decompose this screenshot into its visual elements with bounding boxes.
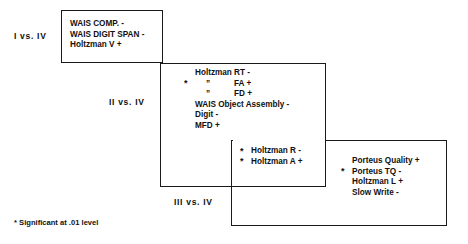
list-item: WAIS Object Assembly - <box>195 100 289 111</box>
content-group-ii-vs-iv: Holtzman RT - * ”FA + ”FD + WAIS Object … <box>195 68 289 132</box>
item-text: Holtzman A + <box>251 157 302 166</box>
list-item: WAIS COMP. - <box>70 19 144 30</box>
item-text: Holtzman L + <box>352 177 403 186</box>
significance-asterisk: * <box>184 78 188 89</box>
item-text: FA + <box>234 79 251 88</box>
significance-asterisk: * <box>240 156 244 167</box>
significance-asterisk: * <box>341 166 345 177</box>
ditto-mark: ” <box>195 89 221 100</box>
item-text: Porteus TQ - <box>352 167 401 176</box>
content-overlap-ii-iii: * Holtzman R - * Holtzman A + <box>251 146 302 167</box>
item-text: WAIS DIGIT SPAN - <box>70 30 144 39</box>
item-text: Porteus Quality + <box>352 156 420 165</box>
list-item: Porteus Quality + <box>352 156 420 167</box>
label-iii-vs-iv: III vs. IV <box>174 197 213 207</box>
item-text: Holtzman V + <box>70 40 122 49</box>
ditto-mark: ” <box>195 79 221 90</box>
label-i-vs-iv: I vs. IV <box>14 31 47 41</box>
list-item: * Porteus TQ - <box>352 167 420 178</box>
item-text: WAIS COMP. - <box>70 19 124 28</box>
footnote-significance: * Significant at .01 level <box>14 218 98 227</box>
item-text: WAIS Object Assembly - <box>195 100 289 109</box>
content-group-iii-vs-iv: Porteus Quality + * Porteus TQ - Holtzma… <box>352 156 420 198</box>
content-group-i-vs-iv: WAIS COMP. - WAIS DIGIT SPAN - Holtzman … <box>70 19 144 51</box>
item-text: Digit - <box>195 110 218 119</box>
overlap-mask-box3-top <box>233 138 325 142</box>
list-item: ”FD + <box>195 89 289 100</box>
label-ii-vs-iv: II vs. IV <box>109 97 145 107</box>
item-text: MFD + <box>195 121 220 130</box>
list-item: * ”FA + <box>195 79 289 90</box>
list-item: Digit - <box>195 110 289 121</box>
list-item: WAIS DIGIT SPAN - <box>70 30 144 41</box>
list-item: * Holtzman A + <box>251 157 302 168</box>
list-item: Holtzman L + <box>352 177 420 188</box>
item-text: Slow Write - <box>352 188 399 197</box>
list-item: Slow Write - <box>352 188 420 199</box>
list-item: MFD + <box>195 121 289 132</box>
significance-asterisk: * <box>240 146 244 157</box>
diagram-canvas: I vs. IV II vs. IV III vs. IV WAIS COMP.… <box>0 0 468 244</box>
item-text: Holtzman RT - <box>195 68 250 77</box>
item-text: FD + <box>234 89 252 98</box>
list-item: Holtzman V + <box>70 40 144 51</box>
overlap-mask-box2-right <box>327 142 332 186</box>
list-item: * Holtzman R - <box>251 146 302 157</box>
item-text: Holtzman R - <box>251 146 301 155</box>
list-item: Holtzman RT - <box>195 68 289 79</box>
